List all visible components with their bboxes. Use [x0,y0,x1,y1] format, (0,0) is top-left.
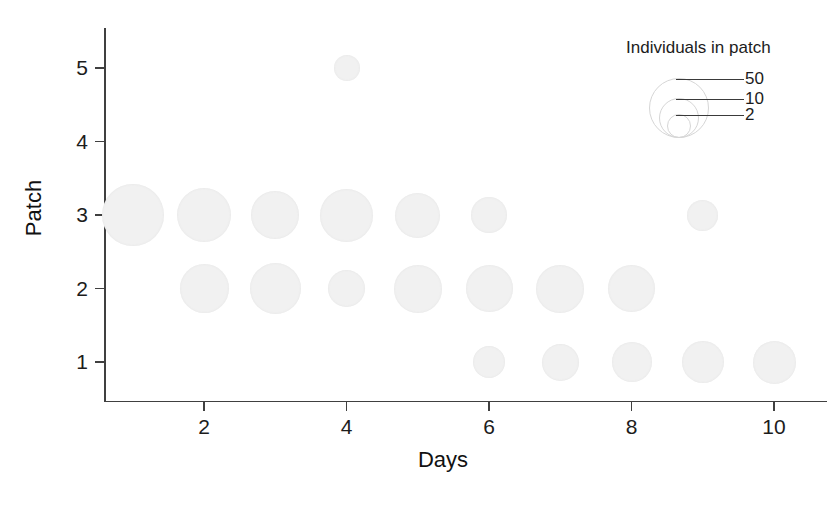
legend-leader-50 [676,79,744,80]
bubble-day8-patch1 [612,342,652,382]
bubble-day4-patch5 [334,55,360,81]
bubble-day10-patch1 [753,341,796,384]
bubble-day9-patch3 [687,200,718,231]
bubble-day3-patch2 [250,263,301,314]
bubble-day5-patch3 [395,193,440,238]
bubble-chart: 12345 246810 Patch Days Individuals in p… [0,0,837,507]
legend-leader-10 [676,99,744,100]
bubble-day4-patch3 [320,189,373,242]
legend-title: Individuals in patch [626,38,771,57]
bubble-day1-patch3 [102,184,164,246]
legend-value-2: 2 [745,106,754,123]
bubble-day7-patch1 [542,344,579,381]
bubble-day4-patch2 [328,270,365,307]
bubble-day3-patch3 [251,191,299,239]
bubble-day9-patch1 [682,341,724,383]
legend-circle-2 [667,114,691,138]
bubble-day7-patch2 [536,265,584,313]
bubble-day5-patch2 [394,265,442,313]
bubble-day8-patch2 [608,265,655,312]
legend-leader-2 [676,115,744,116]
legend-value-50: 50 [745,70,764,87]
bubble-day6-patch2 [466,265,513,312]
legend: Individuals in patch 50102 [626,38,831,143]
bubble-day2-patch3 [177,188,231,242]
bubble-day2-patch2 [180,264,229,313]
bubble-day6-patch3 [471,197,507,233]
bubble-day6-patch1 [473,346,505,378]
